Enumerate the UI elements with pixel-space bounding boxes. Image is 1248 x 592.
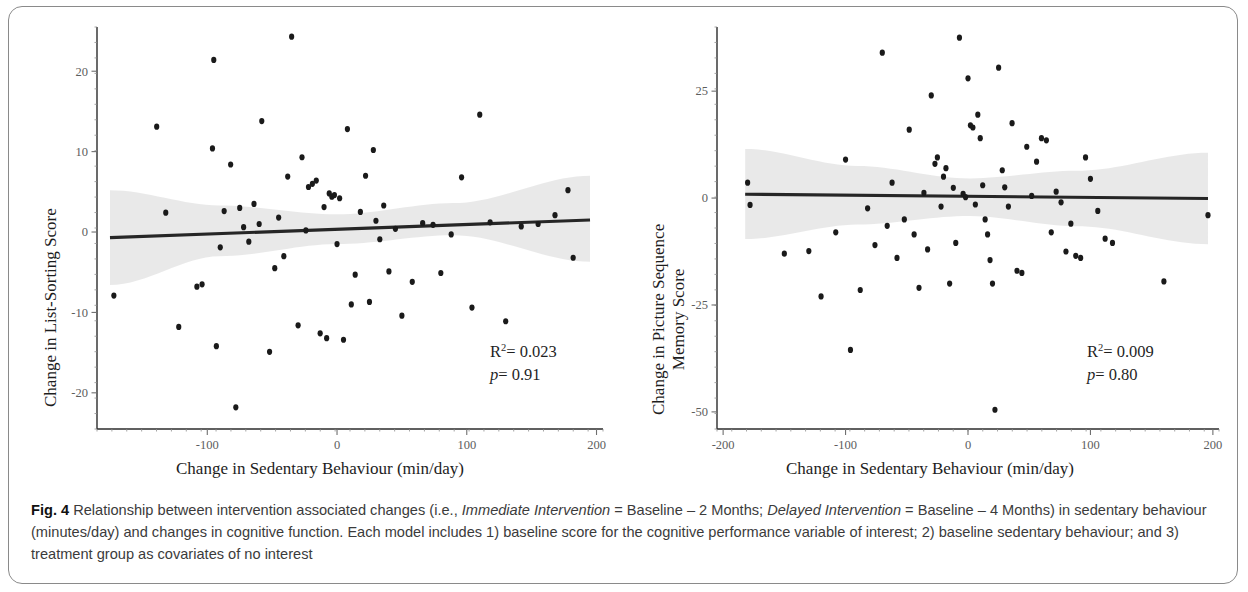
x-tick-label: -200 xyxy=(712,438,735,452)
figure-label: Fig. 4 xyxy=(31,502,69,518)
y-axis-title-right-line1: Change in Picture Sequence xyxy=(649,224,668,415)
x-tick-label: 0 xyxy=(334,438,340,452)
x-tick-label: 100 xyxy=(1081,438,1100,452)
scatter-plot-left: 20100-10-20-1000100200 xyxy=(15,7,625,485)
r-squared-left: R2= 0.023 xyxy=(490,340,557,363)
y-tick-label: 10 xyxy=(76,145,89,159)
caption-emphasis-1: Immediate Intervention xyxy=(462,502,610,518)
figure-caption: Fig. 4 Relationship between intervention… xyxy=(31,499,1221,566)
caption-part-2: = Baseline – 2 Months; xyxy=(610,502,767,518)
chart-panel-left: 20100-10-20-1000100200 Change in Sedenta… xyxy=(15,7,625,485)
y-tick-label: 20 xyxy=(76,65,89,79)
x-axis-title-right: Change in Sedentary Behaviour (min/day) xyxy=(627,459,1233,479)
y-axis-title-right: Change in Picture Sequence Memory Score xyxy=(649,224,689,415)
y-tick-label: 0 xyxy=(82,225,88,239)
chart-panel-right: 250-25-50-200-1000100200 Change in Seden… xyxy=(627,7,1233,485)
x-tick-label: 200 xyxy=(587,438,606,452)
stats-annotation-left: R2= 0.023 p= 0.91 xyxy=(490,340,557,387)
y-axis-title-right-line2: Memory Score xyxy=(669,224,689,415)
panels-container: 20100-10-20-1000100200 Change in Sedenta… xyxy=(9,7,1239,485)
x-tick-label: 0 xyxy=(965,438,971,452)
p-value-right: p= 0.80 xyxy=(1087,363,1154,386)
y-tick-label: -50 xyxy=(691,405,708,419)
p-value-left: p= 0.91 xyxy=(490,363,557,386)
stats-annotation-right: R2= 0.009 p= 0.80 xyxy=(1087,340,1154,387)
y-tick-label: -20 xyxy=(71,386,88,400)
x-tick-label: -100 xyxy=(834,438,857,452)
x-tick-label: -100 xyxy=(196,438,219,452)
scatter-plot-right: 250-25-50-200-1000100200 xyxy=(627,7,1233,485)
y-tick-label: 0 xyxy=(702,191,708,205)
y-tick-label: -25 xyxy=(691,298,708,312)
y-axis-title-left: Change in List-Sorting Score xyxy=(41,208,61,407)
x-axis-title-left: Change in Sedentary Behaviour (min/day) xyxy=(15,459,625,479)
r-squared-right: R2= 0.009 xyxy=(1087,340,1154,363)
caption-emphasis-2: Delayed Intervention xyxy=(767,502,901,518)
x-tick-label: 200 xyxy=(1204,438,1223,452)
figure-card: 20100-10-20-1000100200 Change in Sedenta… xyxy=(8,6,1238,584)
y-tick-label: -10 xyxy=(71,306,88,320)
y-tick-label: 25 xyxy=(696,84,709,98)
x-tick-label: 100 xyxy=(457,438,476,452)
caption-part-1: Relationship between intervention associ… xyxy=(69,502,462,518)
